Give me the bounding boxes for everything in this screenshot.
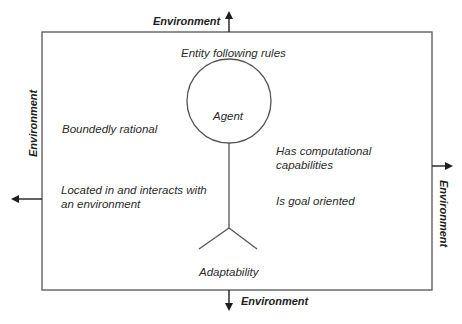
agent-left-leg: [199, 228, 229, 249]
environment-label-top: Environment: [153, 15, 220, 27]
agent-right-leg: [229, 228, 257, 249]
computational-capabilities-label-line1: Has computational: [276, 144, 371, 158]
agent-label: Agent: [213, 109, 243, 123]
goal-oriented-label: Is goal oriented: [276, 194, 355, 208]
environment-label-right: Environment: [438, 180, 450, 247]
environment-label-bottom: Environment: [241, 295, 308, 307]
adaptability-label: Adaptability: [199, 265, 258, 279]
located-interacts-label-line2: an environment: [61, 197, 140, 211]
agent-head-circle: [187, 59, 271, 143]
boundedly-rational-label: Boundedly rational: [62, 122, 157, 136]
computational-capabilities-label-line2: capabilities: [276, 158, 333, 172]
entity-following-rules-label: Entity following rules: [181, 46, 286, 60]
environment-label-left: Environment: [27, 90, 39, 157]
environment-boundary-box: [42, 32, 432, 290]
located-interacts-label-line1: Located in and interacts with: [61, 183, 207, 197]
